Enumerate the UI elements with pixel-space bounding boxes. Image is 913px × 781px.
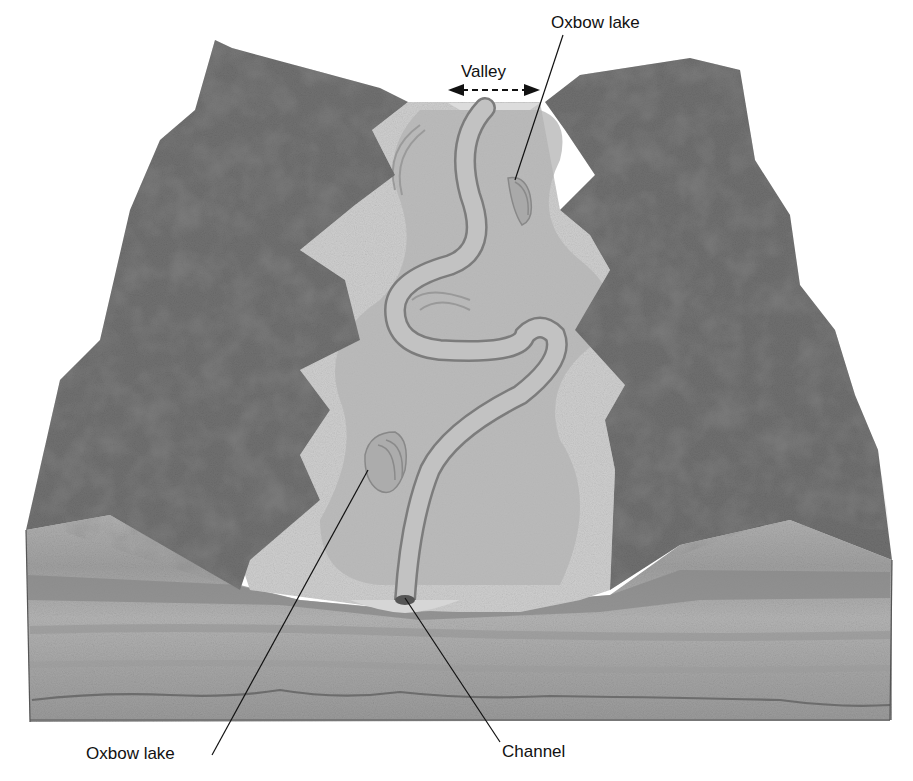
label-channel: Channel <box>502 743 565 760</box>
label-valley: Valley <box>461 63 506 80</box>
river-valley-diagram <box>0 0 913 781</box>
label-oxbow-lake-upper: Oxbow lake <box>551 14 640 31</box>
valley-width-arrow <box>448 84 540 96</box>
block-diagram-illustration <box>0 0 913 781</box>
label-oxbow-lake-lower: Oxbow lake <box>86 745 175 762</box>
